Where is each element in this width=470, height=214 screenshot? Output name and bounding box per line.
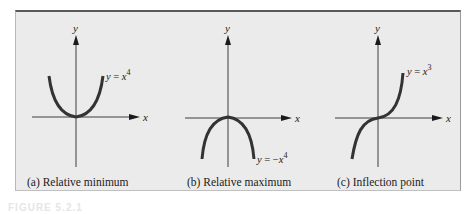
- x-axis-label: x: [445, 112, 451, 124]
- x-axis-arrow-icon: [281, 115, 292, 121]
- y-axis-arrow-icon: [73, 35, 79, 45]
- x-axis-label: x: [294, 112, 300, 124]
- caption-a: (a) Relative minimum: [27, 176, 129, 189]
- x-axis-arrow-icon: [432, 115, 443, 121]
- panel-inflection-point: y x y = x3 (c) Inflection point: [335, 22, 451, 189]
- panel-relative-minimum: y x y = x4 (a) Relative minimum: [27, 22, 148, 189]
- figure-number: FIGURE 5.2.1: [8, 202, 83, 213]
- figure-plots: y x y = x4 (a) Relative minimum y x y = …: [0, 0, 470, 214]
- caption-c: (c) Inflection point: [337, 176, 425, 189]
- panel-relative-maximum: y x y = −x4 (b) Relative maximum: [185, 22, 300, 189]
- equation-label: y = −x4: [256, 151, 287, 165]
- y-axis-label: y: [224, 22, 230, 34]
- y-axis-label: y: [374, 22, 380, 34]
- equation-label: y = x3: [406, 63, 432, 77]
- curve-x3: [352, 73, 403, 159]
- x-axis-arrow-icon: [129, 114, 140, 120]
- y-axis-label: y: [72, 22, 78, 34]
- caption-b: (b) Relative maximum: [187, 176, 291, 189]
- y-axis-arrow-icon: [375, 35, 381, 45]
- x-axis-label: x: [142, 111, 148, 123]
- y-axis-arrow-icon: [225, 35, 231, 45]
- equation-label: y = x4: [105, 68, 131, 82]
